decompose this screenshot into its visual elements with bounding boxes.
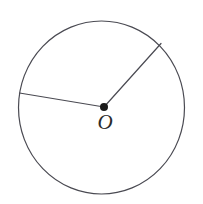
radius-line-upper-right [104, 44, 161, 108]
geometry-figure: O [0, 0, 203, 204]
radius-line-left [20, 93, 105, 107]
circle-diagram-canvas [0, 0, 203, 204]
center-label-O: O [98, 112, 113, 133]
